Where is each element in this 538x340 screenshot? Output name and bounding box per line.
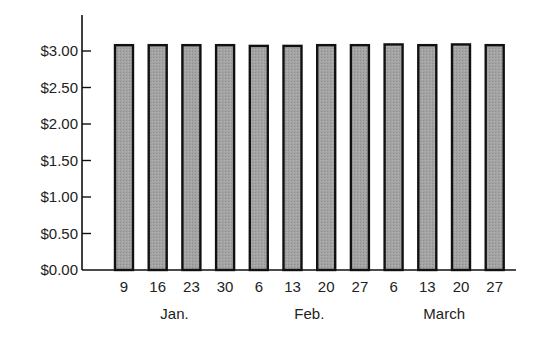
x-tick-label: 20 — [453, 278, 470, 295]
x-tick-label: 27 — [352, 278, 369, 295]
x-tick-label: 20 — [318, 278, 335, 295]
bar-chart: $0.00$0.50$1.00$1.50$2.00$2.50$3.00 9162… — [0, 0, 538, 340]
bar — [418, 45, 436, 270]
month-label: Jan. — [160, 305, 188, 322]
x-tick-label: 30 — [217, 278, 234, 295]
bar — [385, 44, 403, 270]
x-tick-label: 9 — [120, 278, 128, 295]
bar — [351, 45, 369, 270]
bar — [149, 45, 167, 270]
month-label: March — [423, 305, 465, 322]
x-tick-labels: 916233061320276132027 — [120, 278, 503, 295]
x-tick-label: 27 — [486, 278, 503, 295]
bar — [486, 45, 504, 270]
x-tick-label: 13 — [284, 278, 301, 295]
bar — [182, 45, 200, 270]
y-tick-label: $0.00 — [40, 261, 78, 278]
bar — [115, 45, 133, 270]
bar — [317, 45, 335, 270]
bar — [216, 45, 234, 270]
x-tick-label: 6 — [255, 278, 263, 295]
x-tick-label: 16 — [149, 278, 166, 295]
x-tick-label: 6 — [389, 278, 397, 295]
y-axis: $0.00$0.50$1.00$1.50$2.00$2.50$3.00 — [40, 15, 91, 278]
bar — [284, 46, 302, 270]
x-tick-label: 13 — [419, 278, 436, 295]
y-tick-label: $2.50 — [40, 79, 78, 96]
bar — [452, 44, 470, 270]
bars — [115, 44, 504, 270]
y-tick-label: $0.50 — [40, 225, 78, 242]
month-labels: Jan.Feb.March — [160, 305, 465, 322]
y-tick-label: $1.00 — [40, 188, 78, 205]
bar — [250, 46, 268, 270]
month-label: Feb. — [294, 305, 324, 322]
y-tick-label: $1.50 — [40, 152, 78, 169]
y-tick-label: $2.00 — [40, 115, 78, 132]
x-tick-label: 23 — [183, 278, 200, 295]
y-tick-label: $3.00 — [40, 42, 78, 59]
